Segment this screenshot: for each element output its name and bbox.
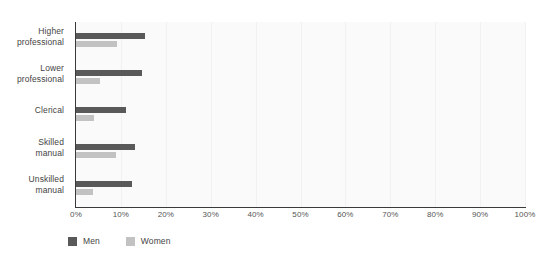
x-tick-label: 20% xyxy=(146,210,186,219)
legend-label: Women xyxy=(141,236,171,246)
category-label-line: Lower xyxy=(0,63,64,74)
x-tick-label: 0% xyxy=(56,210,96,219)
bar-group xyxy=(76,133,525,170)
category-label-line: Clerical xyxy=(0,105,64,116)
category-label-line: manual xyxy=(0,185,64,196)
bar-women xyxy=(76,152,116,158)
category-label: Skilledmanual xyxy=(0,137,64,158)
x-tick-label: 10% xyxy=(101,210,141,219)
legend-label: Men xyxy=(83,236,100,246)
bar-women xyxy=(76,115,94,121)
bar-group xyxy=(76,170,525,207)
legend-swatch-icon xyxy=(126,237,135,246)
bar-men xyxy=(76,107,126,113)
category-label-line: manual xyxy=(0,148,64,159)
x-tick-label: 90% xyxy=(460,210,500,219)
category-label-line: Unskilled xyxy=(0,174,64,185)
bar-group xyxy=(76,22,525,59)
gridline xyxy=(525,22,526,207)
x-tick-label: 80% xyxy=(415,210,455,219)
bar-women xyxy=(76,78,100,84)
category-label-line: professional xyxy=(0,37,64,48)
bar-group xyxy=(76,96,525,133)
category-label-line: professional xyxy=(0,74,64,85)
chart-legend: MenWomen xyxy=(68,236,170,246)
x-tick-label: 50% xyxy=(281,210,321,219)
bar-men xyxy=(76,33,145,39)
x-tick-label: 30% xyxy=(191,210,231,219)
category-label: Unskilledmanual xyxy=(0,174,64,195)
category-label-line: Skilled xyxy=(0,137,64,148)
x-tick-label: 40% xyxy=(236,210,276,219)
bar-women xyxy=(76,189,93,195)
x-tick-label: 70% xyxy=(370,210,410,219)
legend-item-women[interactable]: Women xyxy=(126,236,171,246)
bar-group xyxy=(76,59,525,96)
bar-women xyxy=(76,41,117,47)
legend-item-men[interactable]: Men xyxy=(68,236,100,246)
category-label-line: Higher xyxy=(0,26,64,37)
x-tick-label: 60% xyxy=(325,210,365,219)
bar-chart: HigherprofessionalLowerprofessionalCleri… xyxy=(0,0,554,261)
bar-men xyxy=(76,181,132,187)
category-label: Lowerprofessional xyxy=(0,63,64,84)
category-label: Clerical xyxy=(0,105,64,116)
legend-swatch-icon xyxy=(68,237,77,246)
x-axis-line xyxy=(76,207,526,208)
bar-men xyxy=(76,70,142,76)
category-label: Higherprofessional xyxy=(0,26,64,47)
bar-men xyxy=(76,144,135,150)
x-tick-label: 100% xyxy=(505,210,545,219)
